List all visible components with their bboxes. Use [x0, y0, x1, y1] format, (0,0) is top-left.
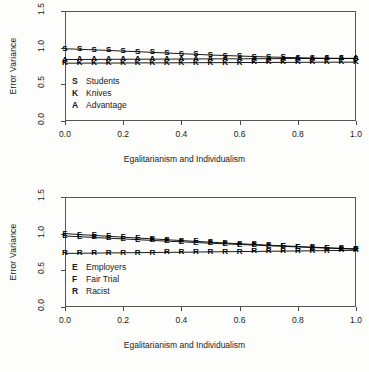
- data-point-marker: R: [222, 248, 228, 256]
- legend-symbol: A: [72, 100, 86, 110]
- data-point-marker: R: [149, 249, 155, 257]
- legend-label: Advantage: [86, 100, 127, 110]
- data-point-marker: R: [62, 249, 68, 257]
- data-point-marker: R: [135, 249, 141, 257]
- data-point-marker: R: [339, 246, 345, 254]
- data-point-marker: R: [280, 247, 286, 255]
- data-point-marker: S: [62, 45, 67, 53]
- data-point-marker: R: [309, 247, 315, 255]
- data-point-marker: K: [251, 58, 257, 66]
- data-point-marker: K: [237, 59, 243, 67]
- data-point-marker: R: [164, 248, 170, 256]
- data-point-marker: K: [309, 58, 315, 66]
- data-point-marker: K: [208, 59, 214, 67]
- data-point-marker: R: [237, 248, 243, 256]
- legend-label: Racist: [86, 286, 110, 296]
- data-point-marker: S: [106, 46, 111, 54]
- data-point-marker: K: [222, 59, 228, 67]
- legend-item: RRacist: [72, 286, 126, 298]
- data-point-marker: E: [77, 233, 82, 241]
- data-point-marker: S: [77, 45, 82, 53]
- data-point-marker: R: [120, 249, 126, 257]
- data-point-marker: R: [179, 248, 185, 256]
- data-point-marker: E: [121, 235, 126, 243]
- chart-legend: EEmployersFFair TrialRRacist: [72, 262, 126, 298]
- chart-legend: SStudentsKKnivesAAdvantage: [72, 76, 127, 112]
- data-point-marker: E: [150, 236, 155, 244]
- data-point-marker: K: [324, 58, 330, 66]
- data-point-marker: E: [193, 239, 198, 247]
- data-point-marker: R: [193, 248, 199, 256]
- data-point-marker: K: [149, 59, 155, 67]
- legend-label: Students: [86, 76, 120, 86]
- legend-item: SStudents: [72, 76, 127, 88]
- data-point-marker: K: [179, 59, 185, 67]
- chart-panel-top: Error Variance0.00.51.01.50.00.20.40.60.…: [0, 0, 369, 186]
- data-point-marker: R: [324, 247, 330, 255]
- data-point-marker: K: [120, 59, 126, 67]
- data-point-marker: R: [91, 249, 97, 257]
- data-point-marker: K: [135, 59, 141, 67]
- data-point-marker: K: [106, 59, 112, 67]
- legend-label: Employers: [86, 262, 126, 272]
- data-point-marker: R: [251, 247, 257, 255]
- legend-item: FFair Trial: [72, 274, 126, 286]
- data-point-marker: E: [179, 238, 184, 246]
- data-point-marker: K: [193, 59, 199, 67]
- data-point-marker: K: [295, 58, 301, 66]
- data-point-marker: E: [62, 232, 67, 240]
- legend-item: EEmployers: [72, 262, 126, 274]
- data-point-marker: K: [62, 59, 68, 67]
- data-point-marker: R: [77, 249, 83, 257]
- data-point-marker: K: [353, 58, 359, 66]
- data-point-marker: R: [295, 247, 301, 255]
- data-point-marker: S: [91, 46, 96, 54]
- data-point-marker: K: [339, 58, 345, 66]
- data-point-marker: K: [266, 58, 272, 66]
- legend-symbol: R: [72, 286, 86, 296]
- legend-symbol: S: [72, 76, 86, 86]
- data-point-marker: R: [106, 249, 112, 257]
- data-point-marker: K: [280, 58, 286, 66]
- legend-symbol: K: [72, 88, 86, 98]
- series-lines: [0, 0, 369, 186]
- series-lines: [0, 186, 369, 372]
- data-point-marker: K: [164, 59, 170, 67]
- data-point-marker: R: [208, 248, 214, 256]
- legend-label: Fair Trial: [86, 274, 119, 284]
- legend-label: Knives: [86, 88, 112, 98]
- data-point-marker: K: [77, 59, 83, 67]
- data-point-marker: E: [135, 236, 140, 244]
- legend-item: KKnives: [72, 88, 127, 100]
- data-point-marker: E: [91, 233, 96, 241]
- data-point-marker: E: [164, 237, 169, 245]
- legend-symbol: E: [72, 262, 86, 272]
- data-point-marker: K: [91, 59, 97, 67]
- data-point-marker: R: [353, 246, 359, 254]
- chart-panel-bottom: Error Variance0.00.51.01.50.00.20.40.60.…: [0, 186, 369, 372]
- legend-symbol: F: [72, 274, 86, 284]
- legend-item: AAdvantage: [72, 100, 127, 112]
- data-point-marker: R: [266, 247, 272, 255]
- data-point-marker: E: [106, 234, 111, 242]
